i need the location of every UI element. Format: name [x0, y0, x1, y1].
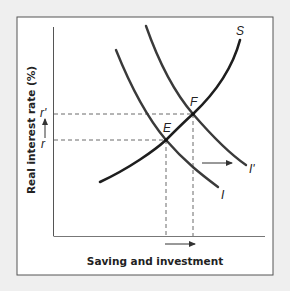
label-E: E	[163, 121, 172, 135]
label-S: S	[236, 24, 244, 38]
point-E-marker	[164, 138, 168, 142]
label-F: F	[190, 95, 198, 109]
y-axis-title: Real interest rate (%)	[25, 66, 37, 194]
chart: S I I' E F r r' Saving and investment Re…	[0, 0, 290, 291]
point-F-marker	[191, 112, 195, 116]
label-I-prime: I'	[249, 162, 255, 176]
x-axis-title: Saving and investment	[87, 255, 223, 267]
y-tick-r-prime: r'	[40, 106, 47, 120]
